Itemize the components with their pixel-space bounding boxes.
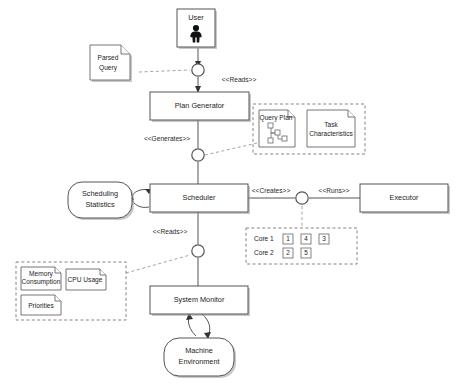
artifact-cpu-usage[interactable]: CPU Usage [66,269,106,290]
ball-joint-reads-monitor [192,245,204,257]
ball-joint-generates [192,149,204,161]
connector-label-reads-monitor: <<Reads>> [153,228,188,235]
node-plan-generator-label: Plan Generator [175,101,225,110]
cores-row-0-slot-1-label: 4 [304,235,308,242]
connector-label-reads-plan: <<Reads>> [222,76,257,83]
artifact-cpu-usage-label: CPU Usage [68,276,103,284]
group-plan-artifacts: Query Plan Task Characteristics [253,104,365,154]
node-scheduler-label: Scheduler [183,193,216,202]
artifact-parsed-query-label-1: Parsed [98,54,119,61]
cores-row-1: Core 2 2 5 [254,248,311,258]
artifact-parsed-query[interactable]: Parsed Query [90,45,132,82]
cores-row-1-slot-1-label: 5 [304,249,308,256]
node-scheduling-statistics[interactable]: Scheduling Statistics [68,182,134,220]
node-executor-label: Executor [390,193,419,202]
connector-parsedquery-to-ball [139,70,190,72]
group-monitor-metrics: Memory Consumption CPU Usage Priorities [16,262,126,320]
node-machine-environment-label-2: Environment [179,357,220,366]
artifact-task-characteristics[interactable]: Task Characteristics [307,110,355,147]
node-machine-environment[interactable]: Machine Environment [164,338,236,378]
artifact-task-characteristics-label-1: Task [324,121,338,128]
ball-joint-creates-runs [296,192,308,204]
artifact-priorities-label: Priorities [28,302,54,309]
artifact-query-plan-label: Query Plan [260,114,293,122]
cores-row-0: Core 1 1 4 3 [254,234,329,244]
node-system-monitor[interactable]: System Monitor [150,286,250,316]
cores-row-0-slot-0-label: 1 [286,235,290,242]
connector-queryplangroup-to-ball [205,143,257,155]
cores-row-1-name: Core 2 [254,249,274,256]
node-scheduling-statistics-label-2: Statistics [85,200,115,209]
group-cores-panel: Core 1 1 4 3 Core 2 2 5 [246,228,357,264]
artifact-parsed-query-label-2: Query [99,64,118,72]
node-user-label: User [188,13,204,22]
artifact-task-characteristics-label-2: Characteristics [309,130,353,137]
node-user[interactable]: User [177,9,217,49]
connector-label-generates: <<Generates>> [144,135,190,142]
node-system-monitor-label: System Monitor [174,295,225,304]
node-machine-environment-label-1: Machine [185,346,213,355]
node-scheduling-statistics-label-1: Scheduling [82,189,118,198]
cores-row-1-slot-0-label: 2 [286,249,290,256]
artifact-parsed-query-fold [121,45,130,54]
artifact-priorities[interactable]: Priorities [21,295,61,315]
connector-label-creates: <<Creates>> [252,187,291,194]
connector-label-runs: <<Runs>> [319,187,350,194]
artifact-memory-consumption-label-1: Memory [29,270,54,278]
connector-metricsgroup-to-ball [126,255,190,273]
node-plan-generator[interactable]: Plan Generator [150,92,251,122]
cores-row-0-slot-2-label: 3 [322,235,326,242]
artifact-memory-consumption[interactable]: Memory Consumption [21,267,61,290]
node-executor[interactable]: Executor [360,184,450,214]
artifact-memory-consumption-label-2: Consumption [22,278,61,286]
node-scheduler[interactable]: Scheduler [150,184,250,214]
ball-joint-reads-plan [192,64,204,76]
uml-component-diagram: <<Reads>> <<Generates>> <<Creates>> <<Ru… [0,0,459,387]
diagram-canvas: <<Reads>> <<Generates>> <<Creates>> <<Ru… [0,0,459,387]
group-cores-panel-border [246,228,357,264]
cores-row-0-name: Core 1 [254,235,274,242]
artifact-query-plan[interactable]: Query Plan [259,110,295,147]
